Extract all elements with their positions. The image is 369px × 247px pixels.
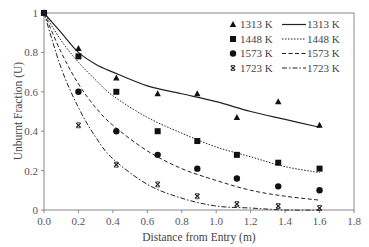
x-tick-label: 0.6 — [140, 215, 154, 227]
unburnt-fraction-chart: 00.20.40.60.81 0.00.20.40.60.81.01.21.41… — [0, 0, 369, 247]
y-tick-label: 0.4 — [24, 125, 38, 137]
triangle-marker-icon — [154, 90, 160, 96]
x-axis-ticks: 0.00.20.40.60.81.01.21.41.61.8 — [37, 210, 361, 227]
square-marker-icon — [75, 53, 81, 59]
model-curve-1723k — [44, 13, 320, 210]
x-tick-label: 1.2 — [244, 215, 258, 227]
measured-points — [41, 10, 323, 211]
x-tick-label: 0.4 — [106, 215, 120, 227]
model-curve-1573k — [44, 13, 320, 200]
x-tick-label: 0.8 — [175, 215, 189, 227]
triangle-marker-icon — [316, 122, 322, 128]
square-marker-icon — [234, 152, 240, 158]
legend-line-label: 1573 K — [307, 47, 340, 59]
circle-marker-icon — [113, 128, 119, 134]
model-curves — [44, 13, 320, 210]
x-tick-label: 1.0 — [209, 215, 223, 227]
y-axis-ticks: 00.20.40.60.81 — [24, 7, 44, 216]
triangle-marker-icon — [234, 114, 240, 120]
x-tick-label: 0.0 — [37, 215, 51, 227]
square-marker-icon — [155, 128, 161, 134]
legend-line-label: 1723 K — [307, 62, 340, 74]
x-marker-icon — [76, 123, 80, 128]
square-marker-icon — [317, 166, 323, 172]
x-tick-label: 0.2 — [72, 215, 86, 227]
triangle-marker-icon — [75, 45, 81, 51]
x-marker-icon — [114, 162, 118, 167]
y-axis-label: Unburnt Fraction (U) — [12, 62, 25, 161]
model-curve-1313k — [44, 13, 320, 127]
circle-marker-icon — [194, 165, 200, 171]
legend-x-icon — [231, 66, 235, 71]
square-marker-icon — [194, 138, 200, 144]
legend-square-icon — [230, 36, 236, 42]
triangle-marker-icon — [113, 75, 119, 81]
y-tick-label: 0.8 — [24, 46, 38, 58]
legend-marker-label: 1448 K — [240, 33, 273, 45]
square-marker-icon — [113, 89, 119, 95]
x-marker-icon — [195, 194, 199, 199]
x-axis-label: Distance from Entry (m) — [142, 231, 256, 244]
x-tick-label: 1.8 — [347, 215, 361, 227]
triangle-marker-icon — [275, 98, 281, 104]
x-marker-icon — [155, 182, 159, 187]
circle-marker-icon — [234, 175, 240, 181]
circle-marker-icon — [316, 187, 322, 193]
legend-line-label: 1448 K — [307, 33, 340, 45]
x-tick-label: 1.4 — [278, 215, 292, 227]
square-marker-icon — [275, 160, 281, 166]
legend-marker-label: 1573 K — [240, 47, 273, 59]
y-tick-label: 1 — [33, 7, 39, 19]
circle-marker-icon — [275, 183, 281, 189]
triangle-marker-icon — [194, 90, 200, 96]
circle-marker-icon — [75, 89, 81, 95]
legend-line-label: 1313 K — [307, 18, 340, 30]
legend-circle-icon — [230, 50, 236, 56]
legend-marker-label: 1723 K — [240, 62, 273, 74]
legend: 1313 K1448 K1573 K1723 K1313 K1448 K1573… — [230, 18, 340, 74]
y-tick-label: 0.2 — [24, 165, 38, 177]
model-curve-1448k — [44, 13, 320, 173]
circle-marker-icon — [154, 152, 160, 158]
legend-marker-label: 1313 K — [240, 18, 273, 30]
x-marker-icon — [276, 204, 280, 209]
legend-triangle-icon — [230, 21, 236, 27]
x-marker-icon — [235, 202, 239, 207]
x-tick-label: 1.6 — [313, 215, 327, 227]
y-tick-label: 0.6 — [24, 86, 38, 98]
